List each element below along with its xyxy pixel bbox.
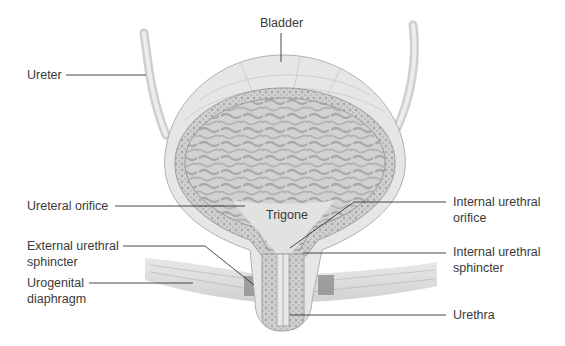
label-internal-urethral-sphincter: Internal urethral sphincter [453, 245, 541, 276]
label-line: Internal urethral [453, 245, 541, 260]
label-urethra: Urethra [453, 308, 495, 323]
label-urogenital-diaphragm: Urogenital diaphragm [27, 276, 86, 307]
label-line: diaphragm [27, 292, 86, 307]
label-line: sphincter [27, 255, 119, 270]
label-line: sphincter [453, 261, 541, 276]
ureter-left [144, 33, 166, 135]
ureter-right [397, 25, 415, 128]
label-line: orifice [453, 211, 541, 226]
label-trigone: Trigone [266, 208, 308, 223]
label-line: External urethral [27, 239, 119, 254]
label-bladder: Bladder [260, 16, 303, 31]
label-line: Urogenital [27, 276, 86, 291]
label-ureteral-orifice: Ureteral orifice [27, 199, 108, 214]
label-line: Internal urethral [453, 195, 541, 210]
label-external-urethral-sphincter: External urethral sphincter [27, 239, 119, 270]
label-internal-urethral-orifice: Internal urethral orifice [453, 195, 541, 226]
label-ureter: Ureter [27, 68, 62, 83]
